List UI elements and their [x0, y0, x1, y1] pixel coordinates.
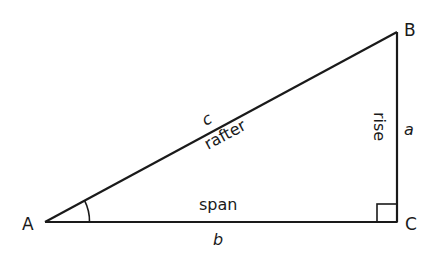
- side-name-span: span: [199, 195, 237, 214]
- triangle-diagram: A B C c rafter rise a span b: [0, 0, 437, 259]
- side-letter-c: c: [198, 108, 215, 129]
- angle-arc-a: [85, 201, 90, 222]
- side-letter-b: b: [213, 230, 223, 249]
- side-name-rise: rise: [370, 112, 389, 141]
- vertex-label-b: B: [404, 20, 416, 40]
- side-letter-a: a: [404, 120, 414, 139]
- vertex-label-a: A: [22, 214, 34, 234]
- vertex-label-c: C: [405, 214, 417, 234]
- right-angle-marker: [377, 204, 397, 222]
